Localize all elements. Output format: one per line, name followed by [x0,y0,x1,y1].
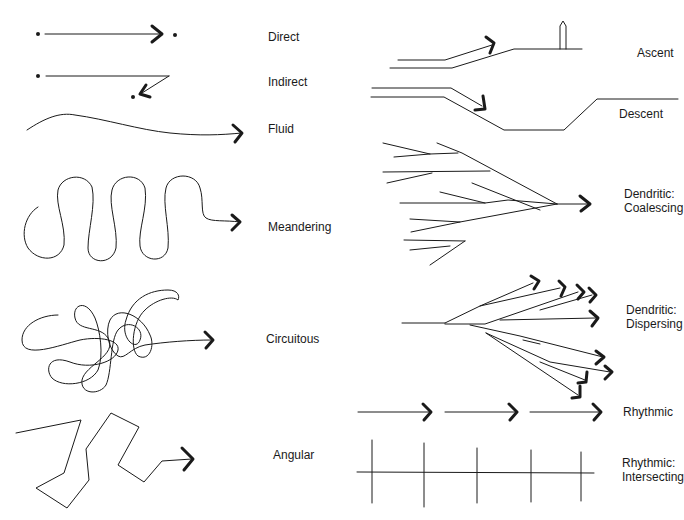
rhythmic-intersecting-glyph [357,440,594,507]
label-circuitous: Circuitous [266,332,319,346]
label-rhythmic: Rhythmic [623,405,673,419]
path-types-diagram [0,0,684,520]
dendritic-coalescing-glyph [383,143,590,265]
indirect-path-glyph [36,74,169,99]
fluid-path-glyph [27,114,242,142]
ascent-path-glyph [390,21,582,68]
label-meandering: Meandering [268,220,331,234]
dendritic-dispersing-glyph [402,276,612,398]
label-rhythmic-intersecting: Rhythmic: Intersecting [622,456,684,484]
label-fluid: Fluid [268,122,294,136]
label-descent: Descent [619,107,663,121]
direct-path-glyph [36,26,177,42]
label-indirect: Indirect [268,75,307,89]
rhythmic-glyph [358,404,601,420]
meandering-path-glyph [24,176,240,261]
label-direct: Direct [268,30,299,44]
angular-path-glyph [16,413,193,508]
label-dendritic-coalescing: Dendritic: Coalescing [624,187,683,215]
label-angular: Angular [273,448,314,462]
label-ascent: Ascent [637,46,674,60]
circuitous-path-glyph [22,290,213,392]
label-dendritic-dispersing: Dendritic: Dispersing [626,303,683,331]
